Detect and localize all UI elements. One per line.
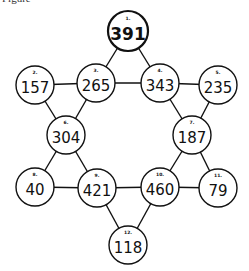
node-value: 304 <box>52 129 81 147</box>
node-2: 2.157 <box>16 66 54 104</box>
node-5: 5.235 <box>199 66 237 104</box>
node-value: 187 <box>178 129 207 147</box>
node-index-label: 12. <box>124 230 132 235</box>
node-value: 235 <box>204 79 233 97</box>
node-value: 391 <box>110 24 146 44</box>
node-10: 10.460 <box>141 168 179 206</box>
node-index-label: 5. <box>216 70 221 75</box>
node-value: 265 <box>82 77 111 95</box>
node-8: 8.40 <box>16 168 54 206</box>
node-7: 7.187 <box>173 116 211 154</box>
node-value: 40 <box>25 181 44 199</box>
node-4: 4.343 <box>141 64 179 102</box>
node-index-label: 1. <box>126 16 131 21</box>
node-index-label: 6. <box>64 120 69 125</box>
node-index-label: 8. <box>33 172 38 177</box>
node-value: 421 <box>83 182 112 200</box>
node-3: 3.265 <box>77 64 115 102</box>
node-11: 11.79 <box>199 169 237 207</box>
node-9: 9.421 <box>78 169 116 207</box>
node-index-label: 10. <box>156 172 164 177</box>
node-value: 79 <box>208 182 227 200</box>
node-value: 157 <box>21 79 50 97</box>
node-6: 6.304 <box>47 116 85 154</box>
node-index-label: 9. <box>95 173 100 178</box>
node-value: 343 <box>146 77 175 95</box>
node-index-label: 4. <box>158 68 163 73</box>
node-value: 118 <box>114 239 143 257</box>
node-value: 460 <box>146 181 175 199</box>
node-12: 12.118 <box>109 226 147 264</box>
node-index-label: 7. <box>190 120 195 125</box>
nodes-group: 1.3912.1573.2654.3435.2356.3047.1878.409… <box>16 11 237 264</box>
star-number-diagram: 1.3912.1573.2654.3435.2356.3047.1878.409… <box>0 0 249 271</box>
node-index-label: 3. <box>94 68 99 73</box>
node-1: 1.391 <box>108 11 148 51</box>
node-index-label: 11. <box>214 173 222 178</box>
node-index-label: 2. <box>33 70 38 75</box>
